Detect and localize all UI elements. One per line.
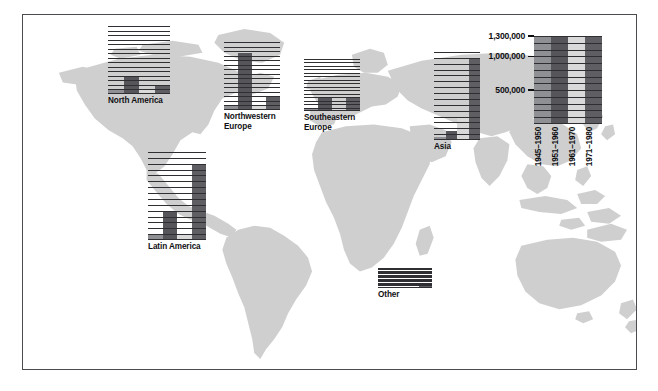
- bar-asia-period-4: [469, 58, 481, 140]
- legend-swatch-period-4: [585, 36, 602, 124]
- plot-top-rule: [224, 42, 280, 43]
- bar-group: [378, 268, 432, 288]
- legend-period-label-4: 1971–1980: [585, 127, 602, 166]
- plot-baseline: [148, 239, 206, 240]
- bar-group: [148, 152, 206, 240]
- bar-northwestern-europe-period-2: [238, 53, 252, 110]
- plot-top-rule: [378, 268, 432, 269]
- legend-baseline: [534, 123, 602, 124]
- legend-period-label-2: 1951–1960: [551, 127, 568, 166]
- plot-area-other: [378, 268, 432, 288]
- legend-swatch-period-1: [534, 36, 551, 124]
- bar-latin-america-period-4: [192, 164, 207, 240]
- bar-group: [304, 59, 360, 111]
- legend-swatch-group: [534, 36, 602, 124]
- bar-chart-southeastern-europe: Southeastern Europe: [304, 59, 360, 132]
- bar-chart-other: Other: [378, 268, 432, 300]
- bar-group: [434, 52, 480, 140]
- plot-top-rule: [434, 52, 480, 53]
- legend-value-label-0: 1,300,000: [489, 31, 525, 41]
- chart-label-latin-america: Latin America: [148, 242, 206, 252]
- plot-baseline: [108, 93, 170, 94]
- chart-label-other: Other: [378, 290, 432, 300]
- chart-label-northwestern-europe: Northwestern Europe: [224, 112, 280, 131]
- plot-area-latin-america: [148, 152, 206, 240]
- bar-latin-america-period-2: [163, 211, 178, 240]
- legend-swatch-period-2: [551, 36, 568, 124]
- bar-chart-asia: Asia: [434, 52, 480, 152]
- bar-asia-period-3: [457, 117, 469, 140]
- plot-baseline: [224, 109, 280, 110]
- chart-label-north-america: North America: [108, 96, 170, 106]
- legend-period-label-3: 1961–1970: [568, 127, 585, 166]
- plot-area-southeastern-europe: [304, 59, 360, 111]
- plot-top-rule: [108, 26, 170, 27]
- legend-period-label-1: 1945–1950: [534, 127, 551, 166]
- figure-root: North AmericaNorthwestern EuropeSoutheas…: [0, 0, 658, 391]
- legend-top-rule: [534, 36, 602, 37]
- bar-chart-latin-america: Latin America: [148, 152, 206, 252]
- bar-chart-north-america: North America: [108, 26, 170, 106]
- scale-legend: [534, 36, 602, 124]
- legend-plot-area: [534, 36, 602, 124]
- plot-area-asia: [434, 52, 480, 140]
- plot-top-rule: [148, 152, 206, 153]
- legend-value-label-2: 500,000: [495, 85, 525, 95]
- bar-chart-northwestern-europe: Northwestern Europe: [224, 42, 280, 131]
- bar-group: [108, 26, 170, 94]
- plot-top-rule: [304, 59, 360, 60]
- bar-north-america-period-2: [124, 76, 140, 94]
- chart-label-southeastern-europe: Southeastern Europe: [304, 113, 360, 132]
- bar-group: [224, 42, 280, 110]
- chart-label-asia: Asia: [434, 142, 480, 152]
- plot-area-northwestern-europe: [224, 42, 280, 110]
- legend-value-label-1: 1,000,000: [489, 51, 525, 61]
- plot-area-north-america: [108, 26, 170, 94]
- plot-baseline: [378, 287, 432, 288]
- legend-swatch-period-3: [568, 36, 585, 124]
- legend-period-labels: 1945–19501951–19601961–19701971–1980: [534, 127, 602, 166]
- plot-baseline: [304, 110, 360, 111]
- plot-baseline: [434, 139, 480, 140]
